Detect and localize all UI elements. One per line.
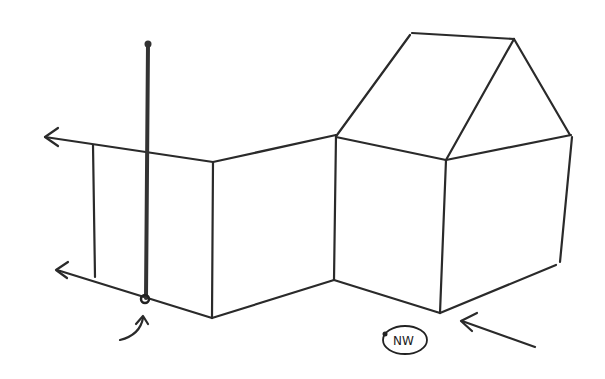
curved-pointer-arrow (120, 316, 148, 340)
nw-compass-badge: NW (383, 326, 428, 354)
middle-wall-panel (212, 135, 336, 318)
sketch-drawing: NW (0, 0, 605, 379)
house-side-wall (440, 135, 572, 313)
compass-label: NW (393, 334, 414, 348)
house-front-wall (334, 137, 446, 313)
left-arrow-bottom (56, 262, 212, 318)
vertical-pole (141, 41, 152, 304)
left-wall-panel (93, 145, 213, 318)
left-arrow-top (45, 128, 213, 162)
sketch-canvas: NW (0, 0, 605, 379)
pole-top-icon (145, 41, 152, 48)
gabled-roof (337, 33, 570, 160)
nw-direction-arrow (461, 313, 535, 347)
